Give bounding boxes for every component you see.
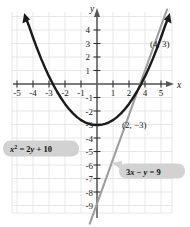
y-tick-label: -6 (86, 161, 94, 171)
x-tick-label: 4 (143, 88, 148, 98)
y-tick-label: 2 (86, 52, 91, 62)
x-axis-label: x (176, 80, 182, 90)
y-tick-label: -2 (86, 107, 94, 117)
x-tick-label: 2 (127, 88, 132, 98)
y-tick-label: 1 (86, 66, 91, 76)
y-tick-label: -8 (86, 188, 94, 198)
x-tick-label: -5 (13, 88, 21, 98)
y-tick-label: -5 (86, 147, 94, 157)
graph-figure: -5 -4 -3 -2 -1 1 2 4 5 4 3 2 1 -1 -2 -3 … (0, 0, 190, 227)
y-tick-label: -9 (86, 201, 94, 211)
callout-line-text: 3x − y = 9 (126, 167, 161, 177)
y-tick-label: -1 (86, 93, 94, 103)
y-tick-label: 4 (86, 25, 91, 35)
x-tick-label: 5 (159, 88, 164, 98)
y-tick-label: 3 (86, 39, 91, 49)
x-tick-label: -1 (77, 88, 85, 98)
callout-parabola-equation: x2 = 2y + 10 (3, 141, 79, 157)
intersection-label-lower: (2, −3) (122, 120, 147, 130)
y-tick-label: -7 (86, 174, 94, 184)
x-tick-label: -3 (45, 88, 53, 98)
intersection-label-upper: (4, 3) (150, 39, 170, 49)
x-tick-label: -4 (29, 88, 37, 98)
coordinate-plane-svg: -5 -4 -3 -2 -1 1 2 4 5 4 3 2 1 -1 -2 -3 … (0, 0, 190, 227)
y-axis-label: y (89, 4, 95, 14)
x-tick-label: 1 (111, 88, 116, 98)
x-tick-label: -2 (61, 88, 69, 98)
y-tick-label: -4 (86, 134, 94, 144)
